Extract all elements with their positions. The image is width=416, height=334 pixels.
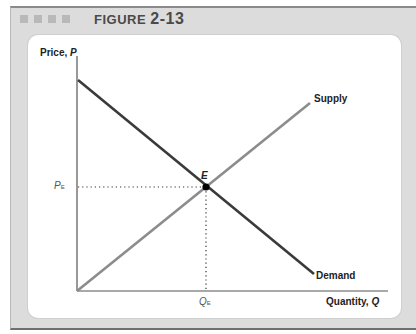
equilibrium-point — [202, 183, 209, 190]
pe-sub: E — [61, 184, 65, 190]
supply-curve — [77, 103, 310, 291]
x-axis-var: Q — [371, 296, 379, 307]
y-axis-var: P — [70, 47, 77, 58]
y-axis-label-text: Price, — [40, 47, 70, 58]
qe-sub: E — [207, 300, 211, 306]
demand-curve — [78, 80, 314, 274]
x-axis-label-text: Quantity, — [326, 296, 371, 307]
qe-main: Q — [199, 296, 207, 307]
demand-label: Demand — [316, 270, 355, 281]
x-axis-label: Quantity, Q — [326, 296, 379, 307]
supply-label: Supply — [314, 93, 347, 104]
equilibrium-label: E — [201, 170, 208, 181]
pe-tick-label: PE — [54, 180, 65, 191]
y-axis-label: Price, P — [40, 47, 77, 58]
pe-main: P — [54, 180, 61, 191]
qe-tick-label: QE — [199, 296, 211, 307]
